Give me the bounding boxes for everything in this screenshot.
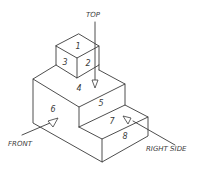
top-arrowhead-icon (92, 80, 98, 88)
right-side-arrowhead-icon (123, 116, 131, 124)
isometric-drawing: TOP FRONT RIGHT SIDE 1 2 3 4 5 6 7 8 (0, 0, 205, 172)
surface-3-number: 3 (62, 58, 67, 67)
front-label: FRONT (8, 140, 33, 148)
surface-4-number: 4 (76, 84, 81, 93)
surface-2-number: 2 (85, 59, 90, 68)
surface-1-number: 1 (75, 42, 80, 51)
top-label: TOP (86, 11, 101, 19)
surface-8-number: 8 (122, 132, 127, 141)
surface-5-number: 5 (98, 99, 103, 108)
right-side-view-arrow: RIGHT SIDE (123, 116, 187, 153)
right-side-label: RIGHT SIDE (146, 145, 187, 153)
surface-7-number: 7 (109, 117, 115, 126)
surface-6-number: 6 (50, 105, 55, 114)
top-cube (56, 34, 99, 78)
front-arrowhead-icon (48, 118, 58, 127)
